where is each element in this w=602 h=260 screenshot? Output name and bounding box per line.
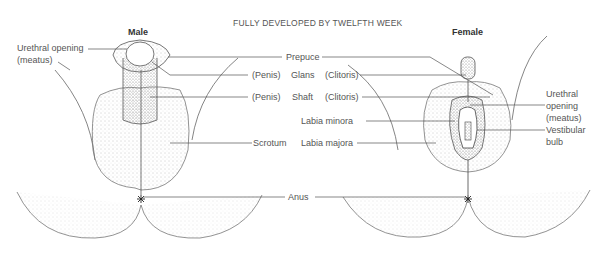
male-figure [17, 40, 262, 238]
label-male-meatus: (meatus) [17, 55, 53, 66]
label-penis-shaft: (Penis) [252, 92, 281, 103]
label-female-opening: opening [546, 101, 578, 112]
label-labia-minora: Labia minora [301, 116, 353, 127]
label-scrotum: Scrotum [253, 138, 287, 149]
label-female-urethral: Urethral [546, 89, 578, 100]
label-anus: Anus [288, 192, 309, 203]
label-vestibular: Vestibular [546, 125, 586, 136]
label-penis-glans: (Penis) [252, 70, 281, 81]
label-clitoris-shaft: (Clitoris) [325, 92, 359, 103]
label-male-urethral-opening: Urethral opening [17, 43, 84, 54]
label-prepuce: Prepuce [286, 52, 320, 63]
male-heading: Male [128, 27, 148, 38]
label-bulb: bulb [546, 137, 563, 148]
female-heading: Female [452, 27, 483, 38]
diagram-title: FULLY DEVELOPED BY TWELFTH WEEK [233, 18, 402, 28]
label-labia-majora: Labia majora [301, 138, 353, 149]
label-shaft: Shaft [292, 92, 313, 103]
diagram-artwork [0, 0, 602, 260]
label-clitoris-glans: (Clitoris) [325, 70, 359, 81]
label-glans: Glans [291, 70, 315, 81]
label-female-meatus: (meatus) [546, 113, 582, 124]
